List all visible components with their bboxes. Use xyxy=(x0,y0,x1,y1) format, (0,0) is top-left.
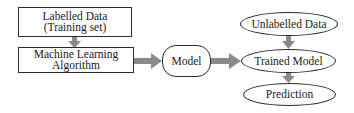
arrow-algorithm-to-model xyxy=(134,53,162,69)
arrow-model-to-trained xyxy=(211,53,241,69)
arrow-trained-to-prediction xyxy=(282,73,295,83)
node-unlabelled-data-label: Unlabelled Data xyxy=(251,19,326,30)
node-labelled-data: Labelled Data (Training set) xyxy=(18,7,132,37)
node-ml-algorithm-line-2: Algorithm xyxy=(52,60,100,71)
node-trained-model: Trained Model xyxy=(241,49,336,73)
node-model: Model xyxy=(162,45,211,77)
node-prediction-label: Prediction xyxy=(266,89,313,100)
node-labelled-data-line-2: (Training set) xyxy=(44,22,107,33)
node-trained-model-label: Trained Model xyxy=(254,56,322,67)
node-prediction: Prediction xyxy=(243,83,336,106)
arrow-unlabelled-to-trained xyxy=(282,36,295,49)
node-ml-algorithm: Machine Learning Algorithm xyxy=(18,47,134,73)
node-model-label: Model xyxy=(171,56,201,67)
node-unlabelled-data: Unlabelled Data xyxy=(240,12,338,36)
